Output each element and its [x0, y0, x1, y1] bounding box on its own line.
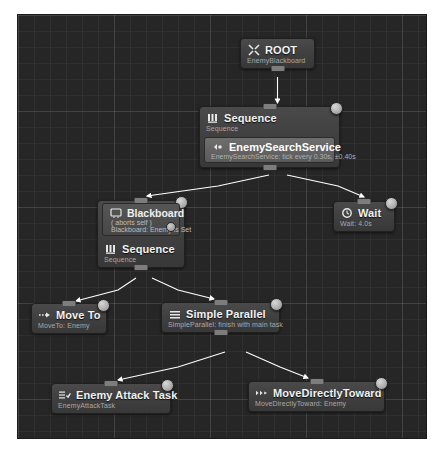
node-move-directly-subtitle: MoveDirectlyToward: Enemy [249, 399, 384, 411]
node-move-to[interactable]: Move To MoveTo: Enemy [31, 303, 107, 334]
node-simple-parallel-title: Simple Parallel [186, 308, 266, 320]
decorator-blackboard[interactable]: Blackboard ( aborts self ) Blackboard: E… [102, 203, 180, 236]
move-directly-input-pin[interactable] [309, 378, 324, 384]
node-wait[interactable]: Wait Wait: 4.0s [333, 201, 395, 232]
root-icon [247, 43, 260, 56]
enemy-attack-input-pin[interactable] [104, 380, 119, 386]
service-header: EnemySearchService [205, 139, 334, 153]
simple-parallel-index-badge [270, 298, 283, 311]
service-enemy-search[interactable]: EnemySearchService EnemySearchService: t… [204, 137, 335, 163]
node-root-header: ROOT [241, 39, 314, 56]
enemy-attack-index-badge [161, 379, 174, 392]
node-simple-parallel-header: Simple Parallel [162, 303, 279, 320]
node-root-title: ROOT [265, 44, 297, 56]
simple-parallel-icon [168, 307, 181, 320]
decorator-header: Blackboard [103, 205, 179, 219]
wire-sequence-to-blackboard [147, 175, 269, 196]
node-enemy-attack-task[interactable]: Enemy Attack Task EnemyAttackTask [51, 383, 171, 414]
behavior-tree-canvas[interactable]: ROOT EnemyBlackboard Sequence [18, 15, 426, 438]
node-move-directly-title: MoveDirectlyToward [273, 387, 382, 399]
wire-simpleparallel-to-movedirectly [246, 352, 308, 378]
node-enemy-attack-header: Enemy Attack Task [52, 384, 170, 401]
node-wait-title: Wait [358, 207, 381, 219]
decorator-pin-dot[interactable] [166, 222, 176, 232]
node-move-directly-header: MoveDirectlyToward [249, 382, 384, 399]
wire-blackboard-to-simpleparallel [152, 278, 214, 299]
wire-simpleparallel-to-attack [118, 352, 225, 380]
node-move-to-title: Move To [56, 309, 101, 321]
screenshot-root: ROOT EnemyBlackboard Sequence [0, 0, 441, 450]
node-sequence-top-header: Sequence [200, 107, 339, 124]
wait-input-pin[interactable] [357, 198, 372, 204]
node-sequence-top-title: Sequence [224, 112, 277, 124]
wire-blackboard-to-moveto [76, 278, 136, 301]
service-subtitle: EnemySearchService: tick every 0.30s, ±0… [205, 153, 334, 160]
node-blackboard-body-title: Sequence [122, 243, 175, 255]
sequence-icon [104, 242, 117, 255]
sequence-top-input-pin[interactable] [262, 103, 277, 109]
sequence-top-index-badge [330, 102, 343, 115]
node-blackboard-sequence[interactable]: Blackboard ( aborts self ) Blackboard: E… [97, 200, 185, 268]
node-sequence-top-subtitle: Sequence [200, 124, 339, 136]
wait-index-badge [385, 197, 398, 210]
node-move-to-subtitle: MoveTo: Enemy [32, 321, 106, 333]
move-to-icon [38, 308, 51, 321]
sequence-top-output-pin[interactable] [262, 165, 277, 171]
node-move-directly-toward[interactable]: MoveDirectlyToward MoveDirectlyToward: E… [248, 381, 385, 412]
node-simple-parallel[interactable]: Simple Parallel SimpleParallel: finish w… [161, 302, 280, 333]
decorator-title: Blackboard [127, 207, 184, 219]
move-to-index-badge [97, 299, 110, 312]
simple-parallel-input-pin[interactable] [213, 299, 228, 305]
node-move-to-header: Move To [32, 304, 106, 321]
node-enemy-attack-subtitle: EnemyAttackTask [52, 401, 170, 413]
service-icon [211, 140, 224, 153]
blackboard-decorator-icon [109, 206, 122, 219]
service-title: EnemySearchService [229, 141, 341, 153]
node-sequence-top[interactable]: Sequence Sequence EnemySearchService Ene… [199, 106, 340, 168]
wire-sequence-to-wait [287, 175, 364, 197]
node-wait-subtitle: Wait: 4.0s [334, 219, 394, 231]
move-to-input-pin[interactable] [62, 300, 77, 306]
node-blackboard-body-header: Sequence [98, 238, 184, 255]
move-directly-index-badge [375, 377, 388, 390]
node-root[interactable]: ROOT EnemyBlackboard [240, 38, 315, 69]
wait-icon [340, 206, 353, 219]
sequence-icon [206, 111, 219, 124]
task-icon [58, 388, 71, 401]
move-directly-icon [255, 386, 268, 399]
blackboard-output-pin[interactable] [134, 265, 149, 271]
simple-parallel-output-pin[interactable] [213, 330, 228, 336]
root-output-pin[interactable] [270, 66, 285, 72]
